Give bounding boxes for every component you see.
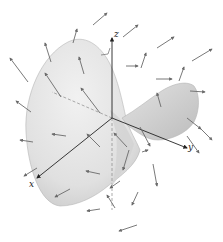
vector-arrow	[87, 209, 100, 211]
vector-field-plot: z x y	[0, 0, 223, 242]
vector-arrow	[157, 37, 174, 48]
vector-arrow	[142, 150, 148, 152]
y-axis-label: y	[187, 142, 194, 152]
vector-arrow	[179, 67, 184, 81]
vector-arrow	[123, 25, 138, 37]
vector-arrow	[10, 58, 28, 82]
saddle-surface-right-curl	[122, 83, 199, 140]
vector-arrow	[119, 225, 137, 231]
vector-arrow	[141, 53, 146, 68]
x-axis-label: x	[29, 179, 34, 189]
vector-arrow	[132, 192, 138, 205]
vector-arrow	[192, 49, 212, 61]
vector-arrow	[153, 164, 157, 186]
vector-field-figure: z x y	[0, 0, 223, 242]
z-axis-label: z	[113, 29, 119, 39]
vector-arrow	[200, 128, 212, 140]
vector-arrow	[93, 13, 107, 25]
vector-arrow	[107, 195, 115, 208]
